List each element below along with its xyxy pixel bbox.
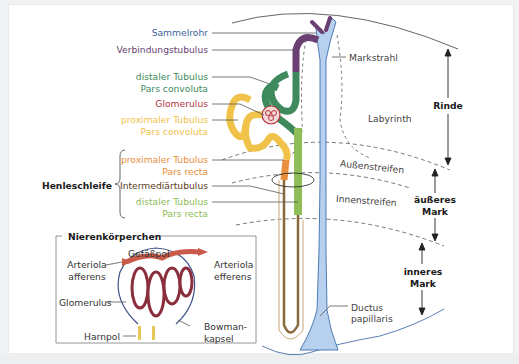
inset-label-harnpol: Harnpol [84,331,120,342]
collecting-duct [300,18,338,350]
inset-title: Nierenkörperchen [68,231,161,242]
label-aeusseres-1: äußeres [412,194,458,205]
label-proximal-convoluta-1: proximaler Tubulus [100,114,208,125]
harnpol-tube-right [152,326,155,340]
label-aeusseres-2: Mark [412,206,458,217]
section-ring [272,173,314,187]
label-proximal-convoluta-2: Pars convoluta [100,126,208,137]
inset-label-bowman-1: Bowman- [204,321,247,332]
distal-convoluta-tube-a [271,72,296,111]
glomerulus-loops [132,268,192,316]
inset-label-bowman-2: kapsel [204,333,234,344]
inset-label-gefaesspol: Gefäßpol [128,248,169,259]
label-rinde: Rinde [428,100,468,111]
label-distal-recta-1: distaler Tubulus [100,196,208,207]
label-inneres-1: inneres [400,266,446,277]
label-proximal-recta-1: proximaler Tubulus [100,154,208,165]
arrow-efferens [198,248,208,256]
label-distal-convoluta-1: distaler Tubulus [100,71,208,82]
outer-inner-medulla-boundary [236,218,444,246]
label-henleschleife: Henleschleife [30,180,112,191]
label-ductus-1: Ductus [351,302,383,313]
label-glomerulus: Glomerulus [100,98,208,109]
inset-label-afferens-1: Arteriola [62,259,112,270]
proximal-recta-tube [284,160,286,180]
label-inneres-2: Mark [400,278,446,289]
label-markstrahl: Markstrahl [349,52,398,63]
inset-label-afferens-2: afferens [62,271,112,282]
inset-label-efferens-1: Arteriola [214,259,253,270]
label-distal-recta-2: Pars recta [100,208,208,219]
label-distal-convoluta-2: Pars convoluta [100,83,208,94]
inset-label-efferens-2: efferens [214,271,251,282]
label-sammelrohr: Sammelrohr [100,27,208,38]
verbindungstubulus-tube [296,38,318,72]
label-ductus-2: papillaris [351,313,393,324]
label-proximal-recta-2: Pars recta [100,166,208,177]
label-labyrinth: Labyrinth [368,113,412,124]
harnpol-tube-left [138,326,141,340]
label-verbindungstubulus: Verbindungstubulus [100,44,208,55]
kidney-capsule-line [232,13,458,49]
label-intermediar: Intermediärtubulus [100,180,208,191]
inset-label-glomerulus: Glomerulus [59,297,112,308]
